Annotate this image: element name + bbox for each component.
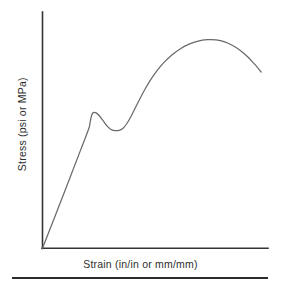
x-axis-label: Strain (in/in or mm/mm) [0, 259, 281, 270]
stress-strain-figure: Stress (psi or MPa) Strain (in/in or mm/… [0, 0, 281, 293]
stress-strain-chart [0, 0, 281, 293]
y-axis-label: Stress (psi or MPa) [17, 77, 28, 171]
y-axis-label-container: Stress (psi or MPa) [13, 0, 31, 248]
